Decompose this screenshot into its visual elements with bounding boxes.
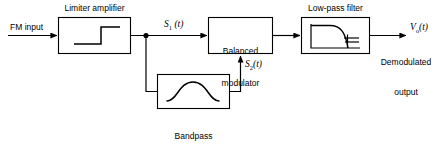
output-signal-paren: (t) — [419, 22, 428, 32]
bandpass-network-caption: Bandpass phase-shift network — [146, 111, 241, 146]
demodulated-output-caption: Demodulated output — [372, 37, 440, 117]
signal-s2-label: S2(t) — [245, 59, 262, 73]
signal-s1-paren: (t) — [172, 19, 183, 29]
lowpass-rolloff-icon — [311, 24, 360, 48]
low-pass-filter-caption: Low-pass filter — [288, 3, 383, 13]
limiter-amplifier-box — [59, 18, 131, 54]
balanced-modulator-label: Balanced modulator — [208, 25, 273, 109]
signal-s1-label: S1 (t) — [164, 19, 183, 33]
step-function-icon — [74, 27, 120, 44]
limiter-amplifier-caption: Limiter amplifier — [44, 3, 145, 13]
output-signal-label: Vo(t) — [410, 22, 428, 36]
balanced-modulator-line1: Balanced — [208, 46, 273, 57]
fm-demodulator-diagram: FM input Limiter amplifier S1 (t) Balanc… — [0, 0, 440, 146]
bandpass-network-line1: Bandpass — [146, 131, 241, 141]
wire-branch-to-bandpass — [146, 36, 157, 92]
signal-s2-paren: (t) — [253, 59, 262, 69]
balanced-modulator-line2: modulator — [208, 78, 273, 89]
demodulated-output-line1: Demodulated — [372, 57, 440, 67]
fm-input-label: FM input — [10, 22, 66, 32]
demodulated-output-line2: output — [372, 87, 440, 97]
